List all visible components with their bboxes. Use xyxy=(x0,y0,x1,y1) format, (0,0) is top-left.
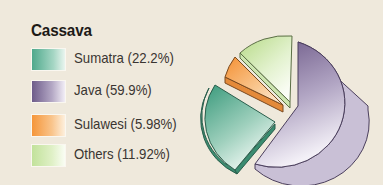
legend-label: Sumatra (22.2%) xyxy=(74,49,174,66)
legend-swatch-java xyxy=(31,80,66,103)
legend-label: Others (11.92%) xyxy=(74,145,170,162)
chart-title: Cassava xyxy=(31,21,92,41)
legend-swatch-sulawesi xyxy=(31,114,66,137)
legend-label: Java (59.9%) xyxy=(74,81,152,98)
legend-label: Sulawesi (5.98%) xyxy=(74,115,177,132)
legend-swatch-others xyxy=(31,144,66,167)
pie-chart xyxy=(195,20,383,185)
chart-panel: Cassava Sumatra (22.2%) Java (59.9%) Sul… xyxy=(0,0,383,185)
legend-swatch-sumatra xyxy=(31,48,66,71)
